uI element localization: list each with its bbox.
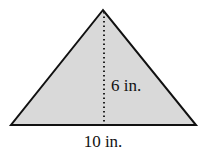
height-label: 6 in. — [111, 76, 141, 95]
triangle-diagram: 6 in. 10 in. — [0, 0, 201, 153]
base-label: 10 in. — [84, 132, 123, 151]
